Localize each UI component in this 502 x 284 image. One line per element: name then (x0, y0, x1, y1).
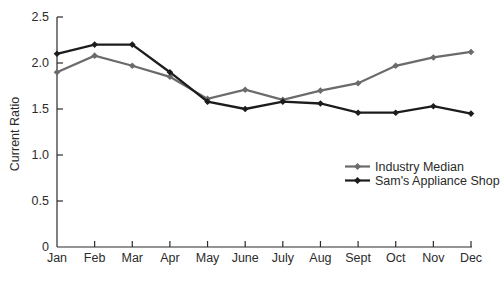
x-tick-label: Oct (386, 251, 406, 265)
data-point-sam-s-appliance-shop (468, 110, 475, 117)
x-tick-label: Sept (345, 251, 371, 265)
legend-item-sams-appliance-shop: Sam's Appliance Shop (345, 174, 500, 187)
x-tick-label: June (232, 251, 259, 265)
data-point-sam-s-appliance-shop (392, 109, 399, 116)
data-point-sam-s-appliance-shop (355, 109, 362, 116)
y-tick-label: 0.5 (32, 194, 49, 208)
data-point-industry-median (91, 52, 98, 59)
legend: Industry Median Sam's Appliance Shop (345, 160, 500, 187)
legend-label-industry-median: Industry Median (375, 160, 464, 174)
sams-appliance-shop-line-marker-icon (345, 176, 370, 185)
data-point-industry-median (129, 62, 136, 69)
x-tick-label: Nov (422, 251, 445, 265)
x-tick-label: July (272, 251, 295, 265)
x-tick-label: Feb (84, 251, 106, 265)
data-point-industry-median (242, 86, 249, 93)
x-tick-label: May (196, 251, 220, 265)
series-line-sam-s-appliance-shop (57, 45, 471, 114)
x-tick-label: Jan (47, 251, 67, 265)
x-tick-label: Aug (309, 251, 331, 265)
legend-label-sams-appliance-shop: Sam's Appliance Shop (375, 174, 500, 188)
x-tick-label: Apr (160, 251, 179, 265)
y-tick-label: 1.0 (32, 148, 49, 162)
data-point-sam-s-appliance-shop (54, 51, 61, 58)
series-line-industry-median (57, 52, 471, 100)
data-point-sam-s-appliance-shop (430, 103, 437, 110)
y-tick-label: 2.5 (32, 10, 49, 24)
data-point-sam-s-appliance-shop (242, 106, 249, 113)
data-point-sam-s-appliance-shop (91, 41, 98, 48)
legend-item-industry-median: Industry Median (345, 160, 500, 173)
y-tick-label: 1.5 (32, 102, 49, 116)
industry-median-line-marker-icon (345, 162, 370, 171)
data-point-industry-median (468, 49, 475, 56)
plot-area: 00.51.01.52.02.5JanFebMarAprMayJuneJulyA… (0, 0, 502, 284)
data-point-industry-median (430, 54, 437, 61)
data-point-industry-median (54, 69, 61, 76)
data-point-industry-median (317, 87, 324, 94)
x-tick-label: Dec (460, 251, 482, 265)
x-tick-label: Mar (122, 251, 144, 265)
y-tick-label: 2.0 (32, 56, 49, 70)
data-point-sam-s-appliance-shop (317, 100, 324, 107)
chart-figure: Current Ratio 00.51.01.52.02.5JanFebMarA… (0, 0, 502, 284)
